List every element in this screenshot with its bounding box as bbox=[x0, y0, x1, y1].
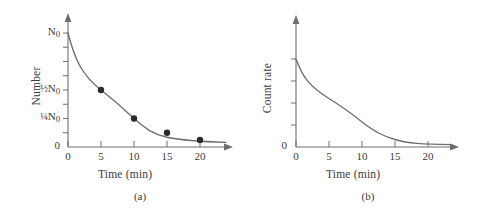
panel-a: N0 ½N0 ¼N0 0 0 5 10 15 20 Number Time (m… bbox=[0, 0, 245, 216]
data-point-15min bbox=[164, 130, 170, 136]
decay-curve-a bbox=[68, 33, 226, 142]
x-tick-label-a-15: 15 bbox=[157, 150, 177, 162]
y-tick-label-a-0: N0 bbox=[14, 25, 60, 39]
x-tick-label-b-5: 5 bbox=[319, 150, 339, 162]
y-tick-label-a-zero: 0 bbox=[14, 139, 60, 151]
panel-caption-b: (b) bbox=[338, 190, 398, 202]
y-ticks-a bbox=[63, 33, 68, 133]
x-tick-label-a-10: 10 bbox=[124, 150, 144, 162]
x-ticks-a bbox=[68, 141, 200, 147]
data-markers-a bbox=[98, 87, 203, 143]
data-point-10min bbox=[131, 115, 137, 121]
x-tick-label-b-15: 15 bbox=[385, 150, 405, 162]
y-axis-arrow-b bbox=[293, 15, 300, 24]
panel-b: 0 0 5 10 15 20 Count rate Time (min) (b) bbox=[245, 0, 490, 216]
data-point-5min bbox=[98, 87, 104, 93]
y-tick-label-b-zero: 0 bbox=[241, 139, 287, 151]
x-axis-title-b: Time (min) bbox=[326, 168, 380, 180]
x-tick-label-a-5: 5 bbox=[91, 150, 111, 162]
x-axis-arrow-a bbox=[224, 144, 233, 151]
y-axis-title-a: Number bbox=[30, 46, 42, 126]
x-tick-label-b-20: 20 bbox=[418, 150, 438, 162]
y-axis-arrow-a bbox=[65, 13, 72, 22]
x-axis-title-a: Time (min) bbox=[98, 168, 152, 180]
data-point-20min bbox=[197, 137, 203, 143]
x-tick-label-a-20: 20 bbox=[190, 150, 210, 162]
decay-figure: N0 ½N0 ¼N0 0 0 5 10 15 20 Number Time (m… bbox=[0, 0, 490, 216]
x-tick-label-b-10: 10 bbox=[352, 150, 372, 162]
y-ticks-b bbox=[291, 59, 296, 125]
x-tick-label-b-0: 0 bbox=[286, 150, 306, 162]
decay-curve-b bbox=[296, 59, 452, 145]
panel-caption-a: (a) bbox=[110, 190, 170, 202]
y-axis-title-b: Count rate bbox=[261, 48, 273, 128]
panel-b-plot bbox=[245, 0, 490, 216]
x-tick-label-a-0: 0 bbox=[58, 150, 78, 162]
